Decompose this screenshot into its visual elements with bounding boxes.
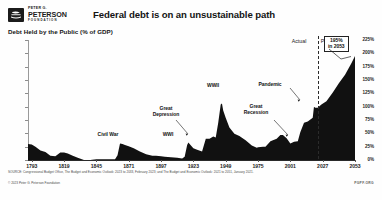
org-url: PGPF.ORG — [354, 181, 374, 185]
badge-leader-line — [8, 36, 374, 164]
copyright-note: © 2023 Peter G. Peterson Foundation — [8, 181, 60, 185]
chart-subtitle: Debt Held by the Public (% of GDP) — [8, 28, 113, 35]
footer: SOURCE: Congressional Budget Office, The… — [8, 170, 374, 174]
logo-line-2: PETERSON — [28, 11, 88, 18]
page-title: Federal debt is on an unsustainable path — [93, 9, 275, 20]
logo-line-3: FOUNDATION — [28, 19, 88, 22]
chart: 0%25%50%75%100%125%150%175%200%225% 1793… — [8, 36, 374, 164]
logo-wordmark: PETER G. PETERSON FOUNDATION — [28, 6, 88, 24]
source-note: SOURCE: Congressional Budget Office, The… — [8, 170, 374, 174]
infographic-page: PETER G. PETERSON FOUNDATION Federal deb… — [0, 0, 382, 200]
peterson-foundation-logo-icon — [8, 8, 24, 22]
header: PETER G. PETERSON FOUNDATION Federal deb… — [8, 6, 374, 26]
